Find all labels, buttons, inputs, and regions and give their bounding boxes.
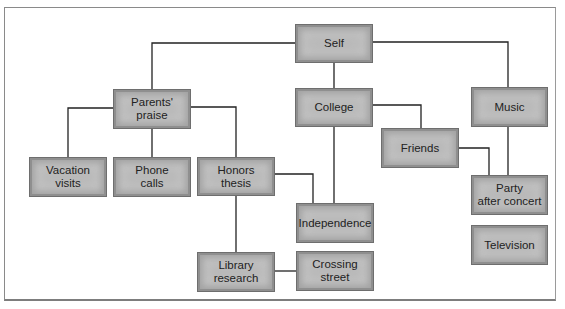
edge-self-music <box>372 42 508 87</box>
node-label: Honors thesis <box>217 164 254 190</box>
node-independence: Independence <box>296 203 374 243</box>
node-party-after-concert: Party after concert <box>471 175 548 215</box>
node-label: Vacation visits <box>46 164 90 190</box>
node-honors-thesis: Honors thesis <box>197 157 275 196</box>
node-label: Phone calls <box>135 164 168 190</box>
node-label: Library research <box>214 259 259 285</box>
node-college: College <box>295 88 373 127</box>
node-crossing-street: Crossing street <box>296 251 374 291</box>
node-label: Self <box>324 37 344 50</box>
node-self: Self <box>295 24 373 63</box>
node-label: Party after concert <box>478 182 542 208</box>
node-label: Music <box>494 101 524 114</box>
node-label: Independence <box>299 217 372 230</box>
edge-friends-party <box>458 148 489 175</box>
edge-honors-thesis-independence <box>275 174 313 203</box>
node-label: College <box>315 101 354 114</box>
edge-parents-praise-honors-thesis <box>191 107 236 157</box>
node-parents-praise: Parents' praise <box>113 89 191 129</box>
node-phone-calls: Phone calls <box>113 157 191 197</box>
node-music: Music <box>471 87 548 127</box>
node-library-research: Library research <box>197 252 275 292</box>
node-label: Crossing street <box>312 258 357 284</box>
node-label: Television <box>484 239 535 252</box>
edge-self-parents-praise <box>152 43 295 89</box>
node-label: Parents' praise <box>131 96 173 122</box>
node-television: Television <box>471 225 548 265</box>
node-friends: Friends <box>381 128 459 168</box>
node-label: Friends <box>401 142 439 155</box>
node-vacation-visits: Vacation visits <box>29 157 107 197</box>
edge-college-friends <box>372 105 421 128</box>
edge-parents-praise-vacation-visits <box>68 108 113 157</box>
